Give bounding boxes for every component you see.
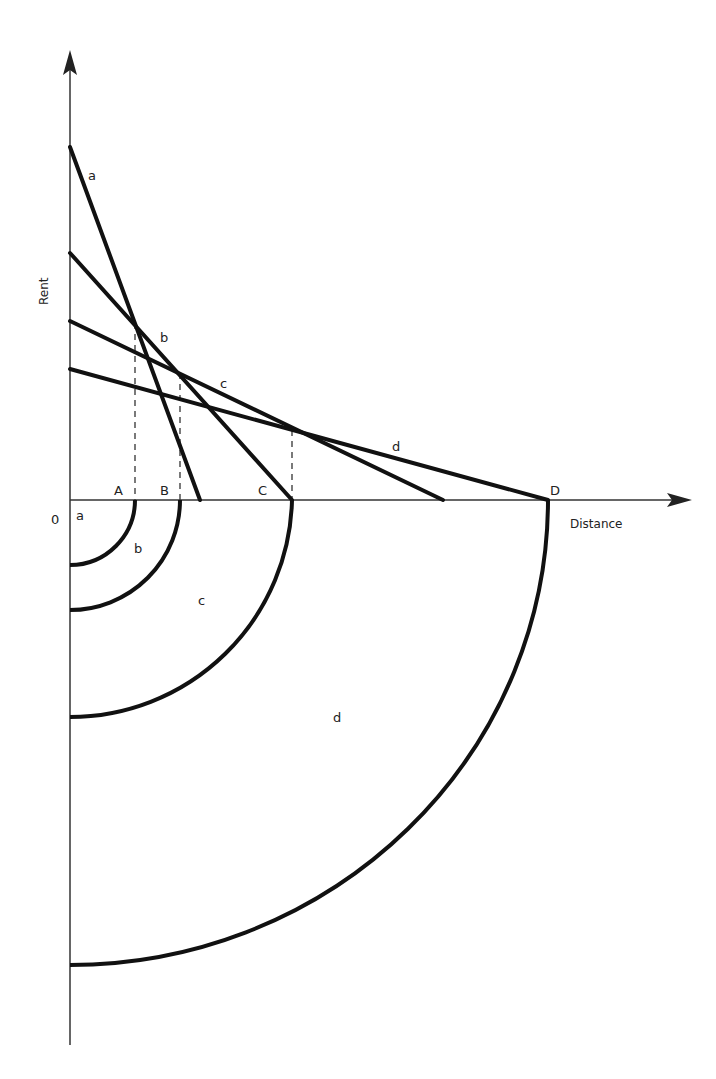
boundary-label-C: C [258, 483, 267, 498]
line-label-a: a [88, 168, 96, 183]
origin-label: 0 [51, 512, 59, 527]
line-label-b: b [160, 330, 168, 345]
zone-arc-B [70, 500, 180, 610]
zone-arc-C [70, 500, 292, 717]
zone-label-c: c [198, 593, 205, 608]
zone-label-a: a [76, 508, 84, 523]
bid-rent-diagram: Rent Distance 0 a b c d A B C D a b c d [0, 0, 716, 1079]
line-label-c: c [220, 376, 227, 391]
boundary-label-D: D [550, 483, 560, 498]
x-axis-label: Distance [570, 517, 622, 531]
y-axis-label: Rent [37, 277, 51, 305]
zone-arc-D [70, 500, 548, 965]
bid-rent-line-c [70, 321, 443, 500]
boundary-label-B: B [160, 483, 169, 498]
line-label-d: d [392, 439, 400, 454]
bid-rent-line-d [70, 369, 548, 500]
zone-label-b: b [134, 541, 142, 556]
zone-label-d: d [333, 710, 341, 725]
boundary-label-A: A [114, 483, 123, 498]
